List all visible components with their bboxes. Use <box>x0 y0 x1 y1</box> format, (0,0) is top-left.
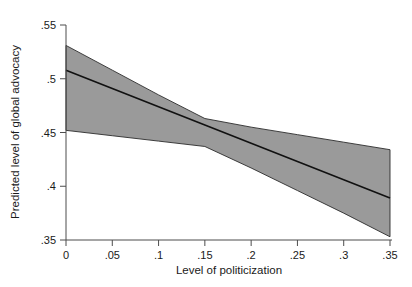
x-tick-label: .2 <box>247 249 256 261</box>
x-tick-label: .35 <box>382 249 397 261</box>
x-tick-label: .1 <box>154 249 163 261</box>
y-tick-label: .45 <box>41 127 56 139</box>
x-tick-label: .25 <box>290 249 305 261</box>
y-tick-label: .4 <box>47 180 56 192</box>
regression-plot: .35.4.45.5.55 0.05.1.15.2.25.3.35 Level … <box>0 0 412 287</box>
y-tick-label: .35 <box>41 234 56 246</box>
x-tick-label: .3 <box>339 249 348 261</box>
x-tick-label: 0 <box>63 249 69 261</box>
x-tick-label: .05 <box>105 249 120 261</box>
y-axis-title: Predicted level of global advocacy <box>9 45 21 219</box>
y-tick-label: .55 <box>41 19 56 31</box>
y-tick-label: .5 <box>47 73 56 85</box>
x-axis-title: Level of politicization <box>176 264 282 276</box>
x-tick-label: .15 <box>197 249 212 261</box>
